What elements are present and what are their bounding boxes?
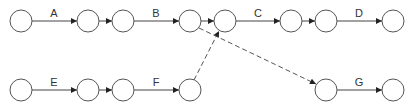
activity-label-f: F — [153, 76, 160, 88]
dummy-dependency-arrow — [199, 28, 316, 84]
activity-label-c: C — [254, 7, 262, 19]
activity-label-g: G — [355, 76, 364, 88]
event-node — [382, 79, 404, 101]
event-node — [77, 79, 99, 101]
event-node — [315, 79, 337, 101]
event-node — [280, 10, 302, 32]
activity-label-d: D — [355, 7, 363, 19]
activity-label-b: B — [152, 7, 159, 19]
network-diagram: A B C D E F G — [0, 0, 418, 108]
event-node — [112, 10, 134, 32]
activity-label-a: A — [50, 7, 58, 19]
activity-label-e: E — [50, 76, 57, 88]
event-node — [382, 10, 404, 32]
event-node — [214, 10, 236, 32]
event-node — [10, 10, 32, 32]
event-node — [315, 10, 337, 32]
event-node — [112, 79, 134, 101]
event-node — [10, 79, 32, 101]
dummy-dependency-arrow — [194, 31, 219, 80]
event-node — [179, 79, 201, 101]
event-node — [179, 10, 201, 32]
event-node — [77, 10, 99, 32]
